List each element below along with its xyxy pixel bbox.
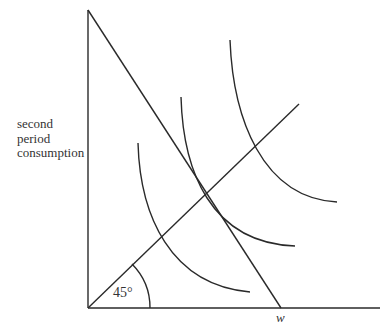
y-axis-label-line-3: consumption [17,146,84,161]
wealth-label: w [276,310,285,326]
indifference-curve-inner [138,143,250,292]
y-axis-label-line-1: second [17,117,84,132]
y-axis-label-line-2: period [17,132,84,147]
angle-arc [132,264,150,308]
ray-45-degree [88,104,299,308]
indifference-curve-outer [230,40,337,202]
indifference-curve-middle [181,97,295,246]
budget-line [88,10,281,308]
consumption-diagram [0,0,384,330]
y-axis-label: second period consumption [17,117,84,161]
angle-label: 45° [113,285,133,301]
